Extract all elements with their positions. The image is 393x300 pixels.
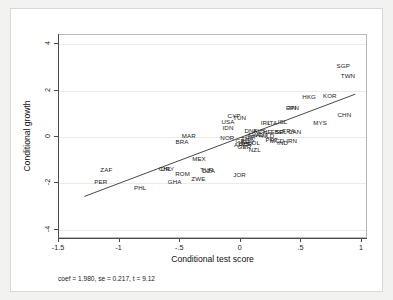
x-axis-line — [58, 238, 367, 239]
data-point-label: CAN — [288, 129, 301, 135]
data-point-label: HKG — [302, 94, 316, 100]
x-axis-title: Conditional test score — [58, 254, 367, 264]
y-tick — [54, 43, 58, 44]
x-tick — [179, 238, 180, 242]
graph-region: SGPTWNHKGKORCHNMYSFINJPNISLIRLITACYPTUNU… — [10, 8, 383, 292]
data-point-label: JPN — [287, 105, 299, 111]
y-axis-title: Conditional growth — [22, 100, 32, 171]
data-point-label: CHN — [338, 112, 352, 118]
x-tick-label: -.5 — [175, 243, 183, 252]
data-point-label: TUN — [233, 115, 246, 121]
data-point-label: IDN — [223, 125, 234, 131]
x-tick-label: 1 — [359, 243, 363, 252]
data-point-label: ROM — [175, 171, 190, 177]
y-tick — [54, 229, 58, 230]
data-point-label: PER — [94, 179, 107, 185]
data-point-label: ITA — [268, 120, 277, 126]
data-point-label: NOR — [220, 135, 234, 141]
y-axis-line — [58, 34, 59, 238]
regression-fit-line — [84, 94, 355, 196]
x-tick — [300, 238, 301, 242]
x-tick-label: .5 — [297, 243, 303, 252]
data-point-label: DZA — [202, 168, 215, 174]
y-tick — [54, 90, 58, 91]
data-point-label: BRA — [175, 138, 188, 144]
x-tick — [119, 238, 120, 242]
x-tick-label: 0 — [238, 243, 242, 252]
data-point-label: ZWE — [191, 176, 205, 182]
regression-annotation: coef = 1.980, se = 0.217, t = 9.12 — [58, 275, 155, 282]
x-tick-label: -1 — [115, 243, 121, 252]
x-tick — [240, 238, 241, 242]
data-point-label: ISL — [278, 119, 288, 125]
data-point-label: ZAF — [100, 167, 112, 173]
y-tick-label: -4 — [43, 225, 52, 231]
data-point-label: MEX — [192, 156, 206, 162]
y-tick-label: 2 — [43, 88, 52, 92]
data-point-label: NZL — [249, 147, 261, 153]
y-tick-label: 0 — [43, 134, 52, 138]
y-tick — [54, 136, 58, 137]
data-point-label: GHA — [168, 179, 182, 185]
data-point-label: MYS — [313, 120, 327, 126]
data-point-label: TWN — [341, 73, 355, 79]
y-tick — [54, 182, 58, 183]
data-point-label: KOR — [323, 93, 337, 99]
data-point-label: PHL — [134, 184, 146, 190]
x-tick — [58, 238, 59, 242]
figure: SGPTWNHKGKORCHNMYSFINJPNISLIRLITACYPTUNU… — [0, 0, 393, 300]
data-point-label: SGP — [337, 63, 350, 69]
y-tick-label: 4 — [43, 41, 52, 45]
x-tick-label: -1.5 — [52, 243, 64, 252]
data-point-label: URY — [161, 166, 174, 172]
x-tick — [361, 238, 362, 242]
fit-line-layer — [59, 35, 366, 237]
plot-area: SGPTWNHKGKORCHNMYSFINJPNISLIRLITACYPTUNU… — [58, 34, 367, 238]
y-tick-label: -2 — [43, 179, 52, 185]
data-point-label: JOR — [233, 171, 246, 177]
data-point-label: IRN — [286, 138, 297, 144]
